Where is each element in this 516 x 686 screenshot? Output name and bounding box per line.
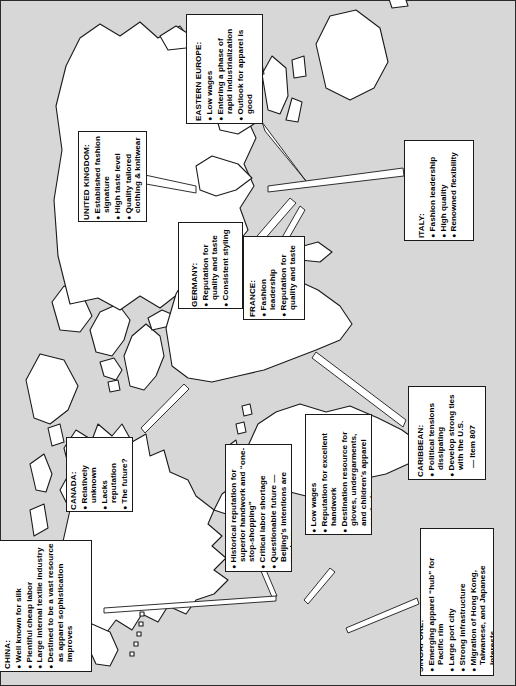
callout-title-eastern-europe: EASTERN EUROPE: [193, 17, 203, 121]
callout-philippines[interactable]: PHILIPPINES: ● Low wages ● Reputation fo… [305, 414, 372, 535]
callout-united-kingdom[interactable]: UNITED KINGDOM: ● Established fashion si… [78, 131, 147, 222]
bullet-icon: ● [229, 565, 236, 569]
callout-italy[interactable]: ITALY: ● Fashion leadership ● High quali… [404, 140, 474, 241]
callout-title-caribbean: CARIBBEAN: [416, 389, 426, 477]
callout-bullet: ● Questionable future — Beijing’s intent… [269, 447, 292, 569]
bullet-icon: ● [427, 668, 434, 672]
callout-title-united-kingdom: UNITED KINGDOM: [81, 134, 91, 220]
callout-bullets-italy: ● Fashion leadership ● High quality ● Re… [428, 144, 459, 238]
bullet-icon: ● [216, 117, 223, 121]
callout-bullet: ● High quality [439, 144, 448, 238]
bullet-icon: ● [260, 313, 267, 317]
callout-title-singapore: SINGAPORE: [420, 532, 425, 672]
callout-bullet: ● Destination resource for gloves, under… [340, 417, 372, 533]
callout-bullets-eastern-europe: ● Low wages ● Entering a phase of rapid … [204, 17, 254, 121]
callout-bullet: ● Relatively unknown [79, 440, 98, 510]
callout-bullet: ● Reputation for quality and taste [279, 239, 298, 317]
bullet-icon: ● [429, 233, 436, 237]
callout-bullets-hong-kong: ● Historical reputation for superior han… [228, 447, 292, 569]
callout-bullet: ● Established fashion signature [92, 134, 111, 220]
callout-bullets-singapore: ● Emerging apparel “hub” for Pacific rim… [426, 532, 494, 672]
bullet-icon: ● [341, 528, 348, 532]
callout-germany[interactable]: GERMANY: ● Reputation for quality and ta… [178, 222, 243, 309]
callout-hong-kong[interactable]: HONG KONG: ● Historical reputation for s… [225, 444, 292, 572]
callout-bullet: ● Strong infrastructure [458, 532, 467, 672]
bullet-icon: ● [470, 668, 477, 672]
callout-bullets-china: ● Well known for silk ● Plentiful cheap … [14, 543, 75, 669]
bullet-icon: ● [428, 473, 435, 477]
bullet-icon: ● [48, 665, 55, 669]
bullet-icon: ● [320, 528, 327, 532]
callout-bullets-philippines: ● Low wages ● Reputation for excellent h… [308, 417, 372, 533]
bullet-icon: ● [448, 668, 455, 672]
callout-eastern-europe[interactable]: EASTERN EUROPE: ● Low wages ● Entering a… [186, 14, 263, 124]
callout-bullet: ● Destined to be a vast resource as appa… [47, 543, 75, 669]
bullet-icon: ● [113, 215, 120, 219]
callout-bullet: ● Outlook for apparel is good [235, 17, 254, 121]
callout-singapore[interactable]: SINGAPORE: ● Emerging apparel “hub” for … [420, 528, 494, 676]
callout-bullets-caribbean: ● Political tensions dissipating ● Devel… [427, 389, 466, 477]
bullet-icon: ● [309, 528, 316, 532]
callout-bullet: ● Large internal textile industry [36, 543, 45, 669]
callout-bullet: ● High taste level [112, 134, 121, 220]
bullet-icon: ● [451, 233, 458, 237]
callout-bullet: ● Renowned flexibility [450, 144, 459, 238]
callout-bullet: ● The future? [120, 440, 129, 510]
callout-title-italy: ITALY: [417, 144, 427, 238]
callout-france[interactable]: FRANCE: ● Fashion leadership ● Reputatio… [243, 236, 305, 320]
bullet-icon: ● [80, 505, 87, 509]
bullet-icon: ● [259, 565, 266, 569]
callout-bullet: ● Fashion leadership [259, 239, 278, 317]
bullet-icon: ● [280, 313, 287, 317]
bullet-icon: ● [459, 668, 466, 672]
callout-bullet: ● Quality tailored clothing & knitwear [123, 134, 142, 220]
callout-bullets-france: ● Fashion leadership ● Reputation for qu… [259, 239, 298, 317]
bullet-icon: ● [448, 473, 455, 477]
callout-bullet: ● Entering a phase of rapid industrializ… [215, 17, 234, 121]
callout-bullet: ● Emerging apparel “hub” for Pacific rim [426, 532, 445, 672]
bullet-icon: ● [100, 505, 107, 509]
callout-bullet: ● Develop strong ties with the U.S. [447, 389, 466, 477]
bullet-icon: ● [201, 302, 208, 306]
callout-bullet: ● Plentiful cheap labor [25, 543, 34, 669]
callout-bullet: ● Lacks reputation [99, 440, 118, 510]
callout-bullets-germany: ● Reputation for quality and taste ● Con… [200, 225, 230, 307]
bullet-icon: ● [26, 665, 33, 669]
callout-subnote-caribbean: — Item 807 [468, 389, 477, 468]
bullet-icon: ● [270, 565, 277, 569]
bullet-icon: ● [93, 215, 100, 219]
callout-bullet: ● Well known for silk [14, 543, 23, 669]
callout-bullet: ● Low wages [204, 17, 213, 121]
callout-bullet: ● Critical labor shortage [258, 447, 267, 569]
callout-bullet: ● Low wages [308, 417, 317, 533]
callout-title-philippines: PHILIPPINES: [305, 417, 307, 533]
callout-bullets-united-kingdom: ● Established fashion signature ● High t… [92, 134, 142, 220]
bullet-icon: ● [124, 215, 131, 219]
callout-bullet: ● Large port city [447, 532, 456, 672]
callout-china[interactable]: CHINA: ● Well known for silk ● Plentiful… [0, 540, 92, 672]
callout-bullet: ● Reputation for excellent handwork [319, 417, 338, 533]
bullet-icon: ● [222, 302, 229, 306]
callout-bullet: ● Political tensions dissipating [427, 389, 446, 477]
callout-bullet: ● Reputation for quality and taste [200, 225, 219, 307]
callout-title-hong-kong: HONG KONG: [225, 447, 227, 569]
callout-bullets-canada: ● Relatively unknown ● Lacks reputation … [79, 440, 129, 510]
bullet-icon: ● [205, 117, 212, 121]
callout-title-china: CHINA: [3, 543, 13, 669]
callout-title-germany: GERMANY: [190, 225, 200, 307]
callout-bullet: ● Consistent styling [221, 225, 230, 307]
callout-caribbean[interactable]: CARIBBEAN: ● Political tensions dissipat… [408, 386, 486, 480]
bullet-icon: ● [440, 233, 447, 237]
apparel-sourcing-map-page: EASTERN EUROPE: ● Low wages ● Entering a… [0, 0, 516, 686]
bullet-icon: ● [121, 505, 128, 509]
callout-bullet: ● Fashion leadership [428, 144, 437, 238]
callout-bullet: ● Historical reputation for superior han… [228, 447, 256, 569]
callout-canada[interactable]: CANADA: ● Relatively unknown ● Lacks rep… [66, 437, 133, 512]
bullet-icon: ● [37, 665, 44, 669]
bullet-icon: ● [15, 665, 22, 669]
callout-title-france: FRANCE: [248, 239, 258, 317]
callout-bullet: ● Migration of Hong Kong, Taiwanese, and… [469, 532, 494, 672]
callout-title-canada: CANADA: [68, 440, 78, 510]
bullet-icon: ● [236, 117, 243, 121]
